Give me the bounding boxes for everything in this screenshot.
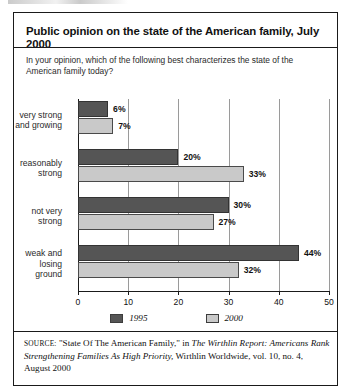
x-tick-label-30: 30 (224, 297, 234, 307)
bar-group: not very strong30%27% (78, 195, 329, 243)
bar-1995 (78, 101, 108, 117)
bar-value-label: 33% (249, 166, 266, 182)
bar-value-label: 27% (219, 214, 236, 230)
category-label: very strong and growing (0, 110, 62, 131)
chart-area: 01020304050very strong and growing6%7%re… (14, 95, 339, 310)
scan-artifact (8, 0, 128, 4)
legend-item-2000: 2000 (206, 313, 243, 323)
chart-plot: 01020304050very strong and growing6%7%re… (78, 99, 329, 291)
bar-value-label: 44% (304, 245, 321, 261)
category-label: not very strong (0, 206, 62, 227)
gridline-50 (329, 99, 330, 291)
bar-2000 (78, 118, 113, 134)
bar-value-label: 7% (118, 118, 130, 134)
x-tick-label-0: 0 (76, 297, 81, 307)
source-label: SOURCE: (24, 339, 57, 348)
x-tick-label-10: 10 (123, 297, 133, 307)
x-tick-40 (279, 291, 280, 295)
bar-value-label: 20% (183, 149, 200, 165)
x-tick-20 (178, 291, 179, 295)
bar-group: very strong and growing6%7% (78, 99, 329, 147)
category-label: reasonably strong (0, 158, 62, 179)
bar-value-label: 32% (244, 262, 261, 278)
figure-frame: Public opinion on the state of the Ameri… (13, 12, 338, 386)
legend-swatch-1995 (110, 314, 123, 323)
bar-value-label: 30% (234, 197, 251, 213)
chart-legend: 1995 2000 (14, 313, 339, 323)
legend-swatch-2000 (206, 314, 219, 323)
bar-2000 (78, 214, 214, 230)
x-tick-30 (229, 291, 230, 295)
bar-2000 (78, 262, 239, 278)
category-label: weak and losing ground (0, 248, 62, 280)
x-tick-label-20: 20 (174, 297, 184, 307)
source-part1: "State Of The American Family," in (57, 338, 192, 348)
title-divider (14, 47, 337, 48)
bar-1995 (78, 149, 178, 165)
x-tick-label-50: 50 (324, 297, 334, 307)
survey-question: In your opinion, which of the following … (26, 55, 322, 77)
source-note: SOURCE: "State Of The American Family," … (24, 337, 330, 375)
x-tick-10 (128, 291, 129, 295)
bar-1995 (78, 197, 229, 213)
bar-value-label: 6% (113, 101, 125, 117)
x-tick-50 (329, 291, 330, 295)
bar-group: reasonably strong20%33% (78, 147, 329, 195)
x-tick-label-40: 40 (274, 297, 284, 307)
legend-label-1995: 1995 (129, 313, 147, 323)
x-tick-0 (78, 291, 79, 295)
bar-group: weak and losing ground44%32% (78, 243, 329, 291)
legend-item-1995: 1995 (110, 313, 147, 323)
bar-1995 (78, 245, 299, 261)
legend-label-2000: 2000 (225, 313, 243, 323)
x-axis-line (78, 291, 329, 292)
source-divider (14, 331, 337, 332)
bar-2000 (78, 166, 244, 182)
